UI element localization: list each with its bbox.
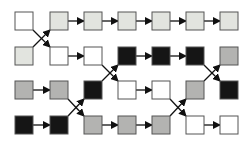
node-mid [152, 116, 170, 134]
node-white [15, 12, 33, 30]
node-mid [220, 47, 238, 65]
node-black [84, 81, 102, 99]
node-light [118, 12, 136, 30]
node-light [50, 12, 68, 30]
node-black [220, 81, 238, 99]
node-black [118, 47, 136, 65]
node-white [84, 47, 102, 65]
node-light [152, 12, 170, 30]
node-white [186, 116, 204, 134]
edges [33, 21, 220, 125]
node-light [84, 12, 102, 30]
node-mid [15, 81, 33, 99]
node-mid [50, 81, 68, 99]
node-black [50, 116, 68, 134]
node-mid [118, 116, 136, 134]
nodes [15, 12, 238, 134]
node-black [15, 116, 33, 134]
swap-network-diagram [0, 0, 250, 143]
node-white [50, 47, 68, 65]
node-light [186, 12, 204, 30]
node-black [152, 47, 170, 65]
node-light [15, 47, 33, 65]
node-light [220, 12, 238, 30]
node-mid [186, 81, 204, 99]
node-mid [84, 116, 102, 134]
node-white [220, 116, 238, 134]
node-black [186, 47, 204, 65]
node-white [152, 81, 170, 99]
node-white [118, 81, 136, 99]
